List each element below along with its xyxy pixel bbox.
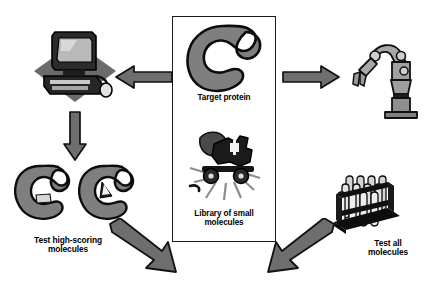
test-tube-rack-icon — [332, 172, 404, 238]
arrow-left — [114, 64, 174, 90]
target-protein-label: Target protein — [172, 93, 276, 102]
desktop-computer-icon — [30, 24, 120, 110]
test-all-label: Test all molecules — [350, 239, 426, 258]
compound-library-machine-icon — [184, 128, 266, 204]
arrow-diagonal-down-left — [260, 218, 340, 280]
arrow-right — [281, 64, 341, 90]
diagram-canvas: Target protein — [0, 0, 428, 283]
protein-c-shape-icon — [183, 23, 267, 93]
arrow-down — [62, 110, 88, 162]
arrow-diagonal-down-right — [104, 218, 184, 280]
robotic-arm-icon — [344, 28, 418, 120]
